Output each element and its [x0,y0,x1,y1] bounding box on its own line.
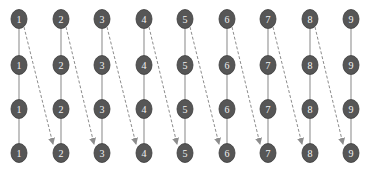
node: 4 [136,56,152,75]
node: 4 [136,100,152,119]
node: 2 [53,56,69,75]
node-label: 1 [17,148,22,159]
dashed-arrow [107,27,136,144]
node: 6 [219,144,235,163]
node-label: 3 [100,14,105,25]
node: 6 [219,56,235,75]
node-label: 8 [308,148,313,159]
node-label: 2 [59,60,64,71]
dashed-arrow [66,27,94,144]
node: 8 [302,100,318,119]
node: 1 [11,100,27,119]
node-label: 8 [308,14,313,25]
node-label: 2 [59,14,64,25]
node: 5 [177,56,193,75]
dashed-arrow [273,27,302,144]
node-label: 4 [142,104,147,115]
node-label: 1 [17,104,22,115]
dashed-arrow [190,27,219,144]
dashed-arrow [24,27,53,144]
node-label: 5 [183,14,188,25]
node: 4 [136,10,152,29]
dashed-arrow [315,27,343,144]
node: 5 [177,100,193,119]
node: 4 [136,144,152,163]
node: 7 [260,10,276,29]
node: 3 [94,56,110,75]
dashed-arrows [24,27,343,144]
node-label: 9 [349,148,354,159]
node-label: 5 [183,60,188,71]
node: 3 [94,144,110,163]
node-label: 9 [349,104,354,115]
node-label: 8 [308,104,313,115]
node: 6 [219,100,235,119]
dashed-arrow [232,27,260,144]
graph-diagram: 111122223333444455556666777788889999 [0,0,371,173]
node: 1 [11,10,27,29]
node-label: 4 [142,148,147,159]
node-label: 9 [349,60,354,71]
node: 8 [302,56,318,75]
node: 5 [177,144,193,163]
node: 1 [11,144,27,163]
node-label: 2 [59,148,64,159]
node-label: 7 [266,14,271,25]
node-label: 1 [17,14,22,25]
node-label: 3 [100,148,105,159]
vertical-edges [19,29,351,144]
node: 9 [343,56,359,75]
dashed-arrow [149,27,177,144]
node-label: 7 [266,60,271,71]
node-label: 5 [183,148,188,159]
node-label: 7 [266,148,271,159]
node: 8 [302,144,318,163]
node-label: 3 [100,104,105,115]
node: 9 [343,100,359,119]
node-label: 6 [225,104,230,115]
node: 3 [94,100,110,119]
node: 7 [260,144,276,163]
node-label: 6 [225,60,230,71]
node-label: 4 [142,14,147,25]
node: 8 [302,10,318,29]
node-label: 5 [183,104,188,115]
node: 1 [11,56,27,75]
node: 2 [53,144,69,163]
node-label: 1 [17,60,22,71]
node: 6 [219,10,235,29]
node-label: 6 [225,148,230,159]
node-label: 8 [308,60,313,71]
node: 7 [260,56,276,75]
node-label: 4 [142,60,147,71]
node-label: 9 [349,14,354,25]
node: 5 [177,10,193,29]
node-label: 2 [59,104,64,115]
node: 9 [343,10,359,29]
node: 2 [53,10,69,29]
node-label: 7 [266,104,271,115]
node: 7 [260,100,276,119]
node-label: 3 [100,60,105,71]
node: 2 [53,100,69,119]
node: 9 [343,144,359,163]
node-label: 6 [225,14,230,25]
node: 3 [94,10,110,29]
